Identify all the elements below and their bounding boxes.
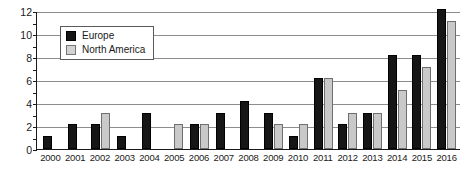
chart-legend: Europe North America <box>60 26 154 60</box>
bar-europe-2016 <box>437 9 446 149</box>
bar-north-america-2002 <box>101 113 110 150</box>
bar-europe-2013 <box>363 113 372 150</box>
bar-europe-2001 <box>68 124 77 149</box>
legend-label-north-america: North America <box>82 45 145 55</box>
x-axis-label-2013: 2013 <box>360 152 385 163</box>
bar-group <box>311 12 336 149</box>
bar-north-america-2012 <box>348 113 357 150</box>
bar-chart: 121086420 Europe North America 200020012… <box>0 0 471 182</box>
bar-group <box>261 12 286 149</box>
y-axis-tick-0 <box>33 150 37 151</box>
x-axis-label-2002: 2002 <box>88 152 113 163</box>
x-axis-label-2006: 2006 <box>187 152 212 163</box>
bar-europe-2002 <box>91 124 100 149</box>
x-axis: 2000200120022003200420052006200720082009… <box>36 152 460 163</box>
y-axis-label-4: 4 <box>2 99 32 110</box>
bar-europe-2006 <box>190 124 199 149</box>
bar-europe-2011 <box>314 78 323 149</box>
bar-europe-2003 <box>117 136 126 150</box>
y-axis-label-0: 0 <box>2 145 32 156</box>
bar-europe-2000 <box>43 136 52 150</box>
bar-europe-2012 <box>338 124 347 149</box>
bar-europe-2007 <box>216 113 225 150</box>
x-axis-label-2016: 2016 <box>434 152 459 163</box>
x-axis-label-2005: 2005 <box>162 152 187 163</box>
x-axis-label-2011: 2011 <box>310 152 335 163</box>
bar-north-america-2014 <box>398 90 407 150</box>
x-axis-label-2007: 2007 <box>211 152 236 163</box>
legend-label-europe: Europe <box>82 31 114 41</box>
bar-group <box>187 12 212 149</box>
x-axis-label-2001: 2001 <box>63 152 88 163</box>
bar-north-america-2005 <box>174 124 183 149</box>
bar-group <box>360 12 385 149</box>
black-square-icon <box>66 31 76 41</box>
x-axis-label-2000: 2000 <box>38 152 63 163</box>
bar-north-america-2006 <box>200 124 209 149</box>
bar-europe-2004 <box>142 113 151 150</box>
bar-group <box>212 12 237 149</box>
y-axis-label-2: 2 <box>2 122 32 133</box>
y-axis-label-6: 6 <box>2 76 32 87</box>
x-axis-label-2008: 2008 <box>236 152 261 163</box>
y-axis-label-12: 12 <box>2 7 32 18</box>
x-axis-label-2010: 2010 <box>286 152 311 163</box>
x-axis-label-2012: 2012 <box>335 152 360 163</box>
x-axis-label-2009: 2009 <box>261 152 286 163</box>
bar-group <box>434 12 459 149</box>
bar-group <box>385 12 410 149</box>
legend-item-north-america: North America <box>66 45 145 55</box>
bar-europe-2009 <box>264 113 273 150</box>
y-axis-label-8: 8 <box>2 53 32 64</box>
bar-group <box>410 12 435 149</box>
x-axis-label-2014: 2014 <box>385 152 410 163</box>
bar-group <box>335 12 360 149</box>
bar-europe-2010 <box>289 136 298 150</box>
bar-group <box>237 12 262 149</box>
bar-north-america-2010 <box>299 124 308 149</box>
x-axis-label-2003: 2003 <box>112 152 137 163</box>
y-axis-label-10: 10 <box>2 30 32 41</box>
bar-north-america-2015 <box>422 67 431 150</box>
legend-item-europe: Europe <box>66 31 145 41</box>
bar-group <box>286 12 311 149</box>
bar-north-america-2011 <box>324 78 333 149</box>
x-axis-label-2015: 2015 <box>409 152 434 163</box>
bar-group <box>163 12 188 149</box>
bar-europe-2008 <box>240 101 249 149</box>
bar-north-america-2009 <box>274 124 283 149</box>
bar-north-america-2016 <box>447 21 456 150</box>
gray-square-icon <box>66 45 76 55</box>
bar-north-america-2013 <box>373 113 382 150</box>
y-axis: 121086420 <box>0 0 32 182</box>
bar-europe-2014 <box>388 55 397 149</box>
x-axis-label-2004: 2004 <box>137 152 162 163</box>
bar-europe-2015 <box>412 55 421 149</box>
